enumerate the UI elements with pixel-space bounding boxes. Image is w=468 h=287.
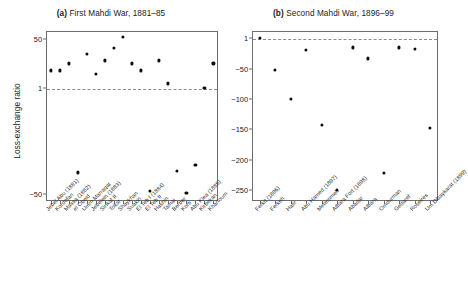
panel-first-mahdi-war: (a) First Mahdi War, 1881–85 Loss-exchan… xyxy=(0,0,222,287)
y-tick-mark xyxy=(249,68,252,69)
y-tick-mark xyxy=(43,38,46,39)
panel-a-title: (a) First Mahdi War, 1881–85 xyxy=(0,9,222,18)
y-tick-label: 50 xyxy=(12,34,42,43)
reference-line xyxy=(253,39,437,40)
reference-line xyxy=(47,89,217,90)
y-tick-label: −150 xyxy=(218,125,248,134)
y-tick-label: −100 xyxy=(218,95,248,104)
y-tick-mark xyxy=(249,159,252,160)
x-tick-label: Hafir xyxy=(285,199,298,212)
panel-second-mahdi-war: (b) Second Mahdi War, 1896–99 1−50−100−1… xyxy=(222,0,445,287)
y-tick-mark xyxy=(43,193,46,194)
y-tick-label: −50 xyxy=(218,64,248,73)
y-tick-label: −200 xyxy=(218,155,248,164)
y-tick-label: 1 xyxy=(12,83,42,92)
y-tick-mark xyxy=(249,37,252,38)
y-tick-mark xyxy=(249,99,252,100)
y-tick-mark xyxy=(249,190,252,191)
y-tick-mark xyxy=(249,129,252,130)
y-tick-label: 1 xyxy=(218,33,248,42)
plot-area-a xyxy=(46,31,218,201)
panel-a-tag: (a) xyxy=(57,9,67,18)
y-tick-label: −250 xyxy=(218,186,248,195)
panel-b-tag: (b) xyxy=(273,9,284,18)
panel-b-title: (b) Second Mahdi War, 1896–99 xyxy=(222,9,445,18)
plot-area-b xyxy=(252,31,438,201)
y-tick-label: −50 xyxy=(12,189,42,198)
y-tick-mark xyxy=(43,87,46,88)
panel-a-title-text: First Mahdi War, 1881–85 xyxy=(69,9,165,18)
panel-b-title-text: Second Mahdi War, 1896–99 xyxy=(286,9,394,18)
